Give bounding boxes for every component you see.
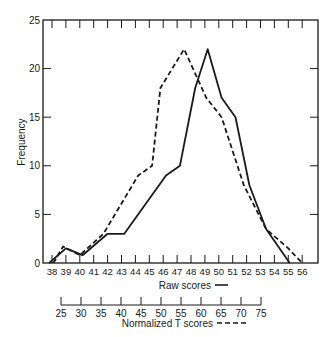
y-tick-label: 15 [29,112,41,123]
x-tick-label: 45 [144,266,155,277]
y-axis-ticks: 0510152025 [29,15,318,269]
raw-axis-label: Raw scores [159,280,211,291]
y-tick-label: 25 [29,15,41,26]
frequency-polygon-chart: 0510152025 38394041424344454647484950515… [0,0,335,337]
t-axis-label: Normalized T scores [122,318,213,329]
x-tick-label: 39 [61,266,72,277]
x-tick-label: 38 [47,266,58,277]
y-tick-label: 5 [34,209,40,220]
raw-score-axis-ticks: 38394041424344454647484950515253545556 [47,20,308,277]
x-tick-label: 44 [130,266,141,277]
x-tick-label: 41 [88,266,99,277]
x-tick-label: 50 [214,266,225,277]
x-tick-label: 51 [227,266,238,277]
x-tick-label: 48 [186,266,197,277]
y-axis-label: Frequency [16,118,27,165]
t-tick-label: 65 [215,308,227,319]
x-tick-label: 40 [75,266,86,277]
t-axis-legend: Normalized T scores [122,318,246,329]
y-tick-label: 20 [29,63,41,74]
raw-scores-line [49,49,290,263]
x-tick-label: 55 [283,266,294,277]
t-tick-label: 35 [95,308,107,319]
normalized-t-scores-line [53,49,302,263]
t-tick-label: 30 [75,308,87,319]
plot-frame [43,20,318,263]
t-tick-label: 75 [255,308,267,319]
x-tick-label: 42 [102,266,113,277]
x-tick-label: 53 [255,266,266,277]
x-tick-label: 43 [116,266,127,277]
y-tick-label: 10 [29,160,41,171]
t-score-axis: 2530354045505560657075 [55,297,267,319]
raw-axis-legend: Raw scores [159,280,228,291]
y-tick-label: 0 [34,258,40,269]
plot-border [43,20,318,263]
x-tick-label: 54 [269,266,280,277]
t-tick-label: 70 [235,308,247,319]
t-tick-label: 25 [55,308,67,319]
x-tick-label: 47 [172,266,183,277]
x-tick-label: 52 [241,266,252,277]
x-tick-label: 49 [200,266,211,277]
x-tick-label: 46 [158,266,169,277]
x-tick-label: 56 [297,266,308,277]
data-series [49,49,302,263]
